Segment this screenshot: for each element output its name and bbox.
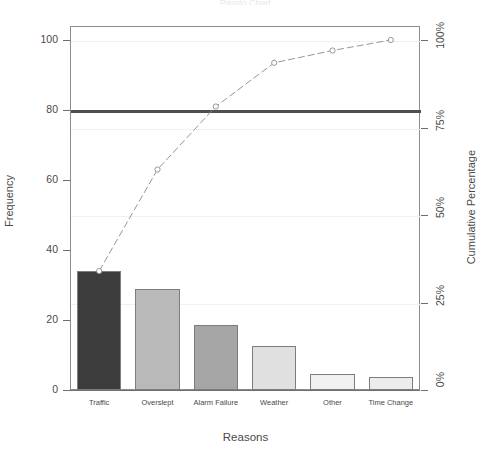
y-tick-label-0: 0 (24, 383, 58, 395)
y-tick-mark (63, 110, 70, 111)
y-tick-label-40: 40 (24, 243, 58, 255)
y-tick-label-60: 60 (24, 173, 58, 185)
bar-alarm-failure (194, 325, 238, 390)
bar-overslept (135, 289, 179, 391)
y2-tick-mark (421, 215, 428, 216)
y2-tick-mark (421, 303, 428, 304)
bar-time-change (369, 377, 413, 390)
x-tick-label-traffic: Traffic (70, 398, 128, 407)
x-tick-label-time-change: Time Change (362, 398, 420, 407)
pareto-chart: Pareto Chart 020406080100 0%25%50%75%100… (0, 0, 491, 460)
y-tick-label-20: 20 (24, 313, 58, 325)
chart-title: Pareto Chart (0, 0, 491, 5)
y2-tick-label-100pct: 100% (434, 22, 446, 49)
y-tick-mark (63, 250, 70, 251)
y-tick-label-80: 80 (24, 103, 58, 115)
y-axis-left-title: Frequency (3, 175, 15, 227)
y2-tick-label-50pct: 50% (434, 197, 446, 218)
x-tick-label-weather: Weather (245, 398, 303, 407)
bar-series (70, 26, 420, 390)
x-tick-label-alarm-failure: Alarm Failure (187, 398, 245, 407)
y2-tick-label-25pct: 25% (434, 285, 446, 306)
y2-tick-mark (421, 128, 428, 129)
y2-tick-mark (421, 390, 428, 391)
y-axis-right-title: Cumulative Percentage (465, 150, 477, 264)
y2-tick-label-0pct: 0% (434, 372, 446, 387)
x-axis-title: Reasons (0, 431, 491, 443)
bar-weather (252, 346, 296, 390)
y2-tick-label-75pct: 75% (434, 110, 446, 131)
y-tick-mark (63, 390, 70, 391)
y2-tick-mark (421, 40, 428, 41)
bar-other (310, 374, 354, 390)
x-axis-baseline (70, 390, 420, 391)
y-tick-mark (63, 320, 70, 321)
y-tick-mark (63, 180, 70, 181)
y-tick-mark (63, 40, 70, 41)
bar-traffic (77, 271, 121, 390)
y-tick-label-100: 100 (24, 33, 58, 45)
x-tick-label-other: Other (303, 398, 361, 407)
x-tick-label-overslept: Overslept (128, 398, 186, 407)
